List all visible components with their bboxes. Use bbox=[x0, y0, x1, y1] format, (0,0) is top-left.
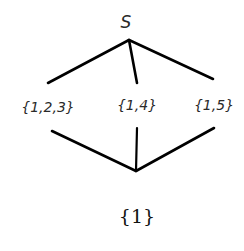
node-a-label: {1,2,3} bbox=[21, 99, 74, 115]
edge-top-a bbox=[48, 40, 129, 83]
edge-top-b bbox=[129, 40, 137, 83]
node-b-label: {1,4} bbox=[117, 97, 157, 113]
node-c-label: {1,5} bbox=[194, 97, 234, 113]
edge-a-bottom bbox=[52, 131, 136, 171]
node-bottom-label: {1} bbox=[119, 205, 155, 227]
node-top-label: S bbox=[121, 12, 132, 32]
edge-b-bottom bbox=[136, 128, 137, 171]
edge-top-c bbox=[129, 40, 213, 79]
edge-c-bottom bbox=[136, 128, 214, 171]
lattice-diagram: S {1,2,3} {1,4} {1,5} {1} bbox=[0, 0, 244, 251]
